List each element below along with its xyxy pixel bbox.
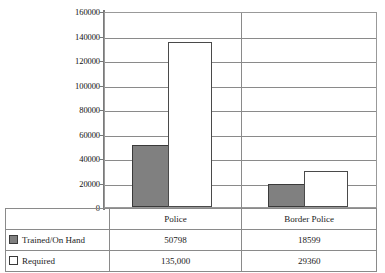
data-table: Police Border Police Trained/On Hand 507… (5, 208, 377, 272)
y-tick-label: 160000 (34, 8, 100, 17)
bar-police-trained (132, 145, 173, 207)
y-tick-label: 80000 (34, 106, 100, 115)
y-tick-label: 20000 (34, 180, 100, 189)
bar-border-police-required (304, 171, 348, 207)
y-axis-labels: 160000 140000 120000 100000 80000 60000 … (28, 0, 100, 220)
legend-label-required: Required (22, 256, 55, 266)
legend-item-required: Required (6, 251, 110, 272)
table-row: Required 135,000 29360 (6, 251, 377, 272)
plot-area (104, 12, 377, 208)
y-tick-label: 60000 (34, 131, 100, 140)
value-police-required: 135,000 (109, 251, 242, 272)
legend-label-trained: Trained/On Hand (22, 235, 85, 245)
y-tick-label: 100000 (34, 82, 100, 91)
y-tick-label: 120000 (34, 57, 100, 66)
legend-swatch-empty-icon (9, 256, 18, 265)
bar-border-police-trained (268, 184, 309, 207)
value-police-trained: 50798 (109, 230, 242, 251)
value-border-police-trained: 18599 (242, 230, 377, 251)
y-tick-label: 40000 (34, 155, 100, 164)
chart-figure: 160000 140000 120000 100000 80000 60000 … (0, 0, 385, 273)
category-divider (241, 13, 242, 209)
value-border-police-required: 29360 (242, 251, 377, 272)
legend-swatch-filled-icon (9, 235, 18, 244)
table-corner-cell (6, 209, 110, 230)
category-header-police: Police (109, 209, 242, 230)
y-tick-label: 140000 (34, 33, 100, 42)
category-header-border-police: Border Police (242, 209, 377, 230)
legend-item-trained: Trained/On Hand (6, 230, 110, 251)
table-row: Trained/On Hand 50798 18599 (6, 230, 377, 251)
table-row-categories: Police Border Police (6, 209, 377, 230)
bar-police-required (168, 42, 212, 207)
